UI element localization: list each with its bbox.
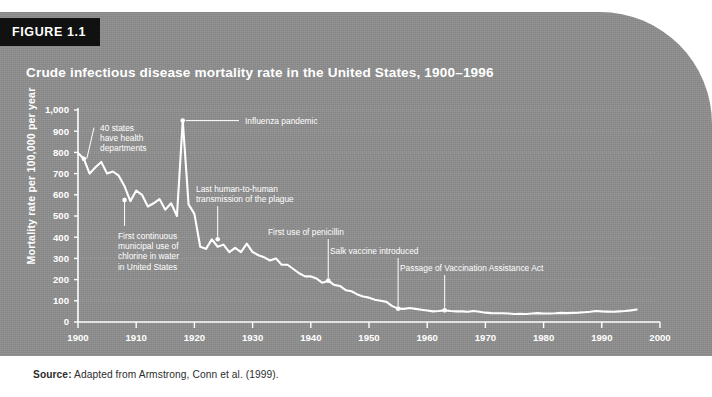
chart-annotation: Influenza pandemic — [245, 116, 318, 126]
x-tick-label: 1920 — [184, 332, 205, 343]
x-tick-label: 1900 — [67, 332, 88, 343]
chart-annotation: 40 stateshave healthdepartments — [100, 123, 147, 153]
y-tick-label: 300 — [53, 253, 69, 264]
chart-area: 01002003004005006007008009001,0001900191… — [0, 0, 712, 344]
annotation-point-marker — [122, 198, 127, 203]
source-label: Source: — [33, 369, 72, 380]
annotation-label: Passage of Vaccination Assistance Act — [400, 263, 544, 273]
x-tick-label: 1960 — [417, 332, 438, 343]
annotation-label: Last human-to-human — [196, 184, 278, 194]
annotation-leader-line — [87, 128, 94, 159]
chart-annotation: Salk vaccine introduced — [330, 246, 419, 256]
x-tick-label: 1990 — [591, 332, 612, 343]
x-tick-label: 1940 — [300, 332, 321, 343]
y-tick-label: 800 — [53, 147, 69, 158]
annotation-label: Salk vaccine introduced — [330, 246, 419, 256]
mortality-line-chart: 01002003004005006007008009001,0001900191… — [0, 0, 712, 344]
annotation-label: in United States — [118, 262, 177, 272]
source-note: Source: Adapted from Armstrong, Conn et … — [33, 369, 279, 380]
y-tick-label: 500 — [53, 210, 69, 221]
x-tick-label: 1970 — [475, 332, 496, 343]
annotation-point-marker — [442, 308, 447, 313]
y-tick-label: 700 — [53, 168, 69, 179]
annotation-label: First continuous — [118, 231, 177, 241]
y-tick-label: 0 — [64, 316, 69, 327]
annotation-point-marker — [180, 118, 185, 123]
annotation-label: 40 states — [100, 123, 134, 133]
x-tick-label: 1950 — [358, 332, 379, 343]
source-citation: Adapted from Armstrong, Conn et al. (199… — [72, 369, 279, 380]
annotation-point-marker — [326, 278, 331, 283]
y-tick-label: 100 — [53, 295, 69, 306]
annotation-point-marker — [82, 156, 87, 161]
x-tick-label: 1980 — [533, 332, 554, 343]
y-tick-label: 1,000 — [45, 104, 69, 115]
annotation-point-marker — [215, 237, 220, 242]
y-tick-label: 200 — [53, 274, 69, 285]
x-tick-label: 1930 — [242, 332, 263, 343]
annotation-label: Influenza pandemic — [245, 116, 318, 126]
annotation-label: departments — [100, 143, 147, 153]
y-axis-title: Mortality rate per 100,000 per year — [25, 66, 37, 286]
annotation-label: First use of penicillin — [268, 227, 344, 237]
data-line-series — [78, 121, 637, 314]
chart-annotation: Last human-to-humantransmission of the p… — [196, 184, 294, 204]
annotation-label: have health — [100, 133, 144, 143]
figure-number-badge: FIGURE 1.1 — [0, 18, 100, 46]
figure-title: Crude infectious disease mortality rate … — [26, 65, 494, 80]
y-tick-label: 400 — [53, 232, 69, 243]
x-tick-label: 1910 — [126, 332, 147, 343]
y-tick-label: 600 — [53, 189, 69, 200]
chart-annotation: First continuousmunicipal use ofchlorine… — [118, 231, 179, 272]
figure-container: FIGURE 1.1 Crude infectious disease mort… — [0, 0, 712, 397]
chart-annotation: First use of penicillin — [268, 227, 344, 237]
annotation-label: municipal use of — [118, 241, 179, 251]
annotation-label: transmission of the plague — [196, 194, 294, 204]
y-tick-label: 900 — [53, 126, 69, 137]
x-tick-label: 2000 — [649, 332, 670, 343]
annotation-point-marker — [396, 306, 401, 311]
annotation-label: chlorine in water — [118, 251, 179, 261]
source-bar: Source: Adapted from Armstrong, Conn et … — [0, 356, 712, 397]
chart-annotation: Passage of Vaccination Assistance Act — [400, 263, 544, 273]
